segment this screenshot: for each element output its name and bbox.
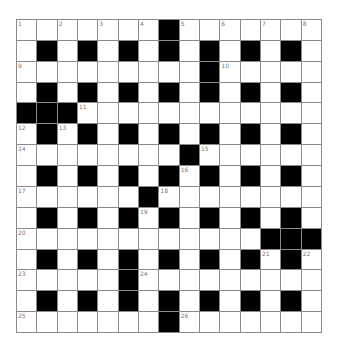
grid-cell[interactable] [200, 229, 219, 249]
grid-cell[interactable] [139, 291, 158, 311]
grid-cell[interactable]: 13 [58, 124, 77, 144]
grid-cell[interactable] [302, 291, 321, 311]
grid-cell[interactable] [200, 20, 219, 40]
grid-cell[interactable] [78, 62, 97, 82]
grid-cell[interactable] [78, 145, 97, 165]
grid-cell[interactable] [281, 312, 300, 332]
grid-cell[interactable] [139, 41, 158, 61]
grid-cell[interactable] [220, 166, 239, 186]
grid-cell[interactable] [98, 166, 117, 186]
grid-cell[interactable] [58, 229, 77, 249]
grid-cell[interactable]: 11 [78, 103, 97, 123]
grid-cell[interactable] [37, 187, 56, 207]
grid-cell[interactable] [180, 208, 199, 228]
grid-cell[interactable] [220, 103, 239, 123]
grid-cell[interactable] [281, 20, 300, 40]
grid-cell[interactable] [119, 229, 138, 249]
grid-cell[interactable] [241, 103, 260, 123]
grid-cell[interactable] [98, 208, 117, 228]
grid-cell[interactable] [37, 62, 56, 82]
grid-cell[interactable] [281, 270, 300, 290]
grid-cell[interactable] [139, 250, 158, 270]
grid-cell[interactable] [261, 62, 280, 82]
grid-cell[interactable] [98, 41, 117, 61]
grid-cell[interactable] [159, 103, 178, 123]
grid-cell[interactable] [302, 41, 321, 61]
grid-cell[interactable] [302, 270, 321, 290]
grid-cell[interactable] [180, 41, 199, 61]
grid-cell[interactable] [37, 270, 56, 290]
grid-cell[interactable] [220, 145, 239, 165]
grid-cell[interactable] [241, 62, 260, 82]
grid-cell[interactable] [180, 103, 199, 123]
grid-cell[interactable] [139, 229, 158, 249]
grid-cell[interactable] [37, 20, 56, 40]
grid-cell[interactable] [200, 270, 219, 290]
grid-cell[interactable] [139, 124, 158, 144]
grid-cell[interactable] [180, 83, 199, 103]
grid-cell[interactable] [241, 20, 260, 40]
grid-cell[interactable] [58, 41, 77, 61]
grid-cell[interactable] [220, 312, 239, 332]
grid-cell[interactable] [220, 187, 239, 207]
grid-cell[interactable] [139, 166, 158, 186]
grid-cell[interactable] [220, 41, 239, 61]
grid-cell[interactable] [180, 229, 199, 249]
grid-cell[interactable] [261, 83, 280, 103]
grid-cell[interactable] [220, 124, 239, 144]
grid-cell[interactable] [119, 103, 138, 123]
grid-cell[interactable] [241, 145, 260, 165]
grid-cell[interactable] [302, 62, 321, 82]
grid-cell[interactable] [261, 166, 280, 186]
grid-cell[interactable] [281, 145, 300, 165]
grid-cell[interactable] [17, 83, 36, 103]
grid-cell[interactable] [78, 20, 97, 40]
grid-cell[interactable] [119, 187, 138, 207]
grid-cell[interactable] [302, 208, 321, 228]
grid-cell[interactable] [58, 250, 77, 270]
grid-cell[interactable]: 21 [261, 250, 280, 270]
grid-cell[interactable] [302, 83, 321, 103]
grid-cell[interactable]: 6 [220, 20, 239, 40]
grid-cell[interactable] [180, 250, 199, 270]
grid-cell[interactable] [17, 250, 36, 270]
grid-cell[interactable] [37, 229, 56, 249]
grid-cell[interactable] [180, 270, 199, 290]
grid-cell[interactable] [220, 208, 239, 228]
grid-cell[interactable] [281, 187, 300, 207]
grid-cell[interactable] [241, 229, 260, 249]
grid-cell[interactable] [220, 291, 239, 311]
grid-cell[interactable]: 1 [17, 20, 36, 40]
grid-cell[interactable]: 3 [98, 20, 117, 40]
grid-cell[interactable] [180, 124, 199, 144]
grid-cell[interactable]: 20 [17, 229, 36, 249]
grid-cell[interactable] [261, 41, 280, 61]
grid-cell[interactable] [119, 312, 138, 332]
grid-cell[interactable]: 15 [200, 145, 219, 165]
grid-cell[interactable] [139, 83, 158, 103]
grid-cell[interactable] [17, 291, 36, 311]
grid-cell[interactable] [139, 62, 158, 82]
grid-cell[interactable] [302, 312, 321, 332]
grid-cell[interactable] [241, 270, 260, 290]
grid-cell[interactable] [98, 187, 117, 207]
grid-cell[interactable] [302, 187, 321, 207]
grid-cell[interactable] [159, 270, 178, 290]
grid-cell[interactable] [180, 187, 199, 207]
grid-cell[interactable] [261, 291, 280, 311]
grid-cell[interactable] [78, 270, 97, 290]
grid-cell[interactable] [302, 103, 321, 123]
grid-cell[interactable]: 25 [17, 312, 36, 332]
grid-cell[interactable] [17, 41, 36, 61]
grid-cell[interactable] [261, 103, 280, 123]
grid-cell[interactable] [261, 187, 280, 207]
grid-cell[interactable] [98, 250, 117, 270]
grid-cell[interactable]: 9 [17, 62, 36, 82]
grid-cell[interactable]: 18 [159, 187, 178, 207]
grid-cell[interactable] [58, 291, 77, 311]
grid-cell[interactable] [98, 312, 117, 332]
grid-cell[interactable] [58, 312, 77, 332]
grid-cell[interactable]: 26 [180, 312, 199, 332]
grid-cell[interactable] [98, 145, 117, 165]
grid-cell[interactable] [58, 187, 77, 207]
